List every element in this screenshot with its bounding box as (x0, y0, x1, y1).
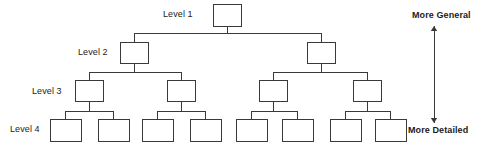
node-box-n4a[interactable] (51, 120, 82, 142)
axis-arrowhead-up (431, 26, 437, 31)
node-box-n2a[interactable] (121, 43, 149, 64)
generality-axis-arrow (431, 26, 437, 123)
axis-label-more-general: More General (412, 10, 471, 20)
connector-lines (66, 26, 391, 119)
level-label-3: Level 3 (32, 86, 62, 96)
node-box-n1[interactable] (214, 5, 242, 27)
node-box-n3a[interactable] (76, 81, 104, 102)
node-box-n3c[interactable] (260, 81, 288, 102)
node-box-n4c[interactable] (143, 120, 174, 142)
node-boxes (51, 5, 407, 142)
node-box-n3d[interactable] (354, 81, 382, 102)
node-box-n4g[interactable] (331, 120, 362, 142)
level-label-1: Level 1 (163, 9, 193, 19)
diagram-canvas (0, 0, 477, 147)
node-box-n2b[interactable] (308, 43, 336, 64)
hierarchy-diagram: Level 1 Level 2 Level 3 Level 4 More Gen… (0, 0, 477, 147)
level-label-4: Level 4 (10, 124, 40, 134)
node-box-n4f[interactable] (283, 120, 314, 142)
level-label-2: Level 2 (78, 47, 108, 57)
node-box-n4e[interactable] (237, 120, 268, 142)
node-box-n4b[interactable] (99, 120, 130, 142)
node-box-n4d[interactable] (191, 120, 222, 142)
node-box-n4h[interactable] (376, 120, 407, 142)
axis-label-more-detailed: More Detailed (408, 125, 468, 135)
node-box-n3b[interactable] (168, 81, 196, 102)
axis-arrowhead-down (431, 118, 437, 123)
